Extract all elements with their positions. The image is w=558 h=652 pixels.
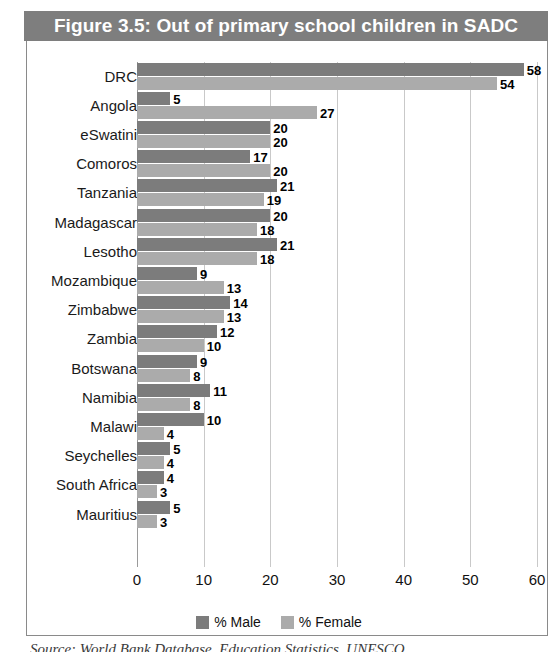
category-label: Madagascar bbox=[54, 215, 137, 230]
category-label: Comoros bbox=[76, 156, 137, 171]
bar-female bbox=[137, 106, 317, 119]
bar-value-female: 27 bbox=[320, 107, 334, 120]
gridline-50 bbox=[470, 62, 471, 567]
category-label: Angola bbox=[90, 98, 137, 113]
bar-female bbox=[137, 398, 190, 411]
bar-value-female: 13 bbox=[227, 282, 241, 295]
x-axis-tick-30: 30 bbox=[317, 572, 357, 587]
bar-value-male: 20 bbox=[273, 122, 287, 135]
category-label: eSwatini bbox=[80, 127, 137, 142]
bar-value-male: 21 bbox=[280, 180, 294, 193]
bar-male bbox=[137, 179, 277, 192]
bar-female bbox=[137, 456, 164, 469]
x-axis-tick-0: 0 bbox=[117, 572, 157, 587]
bar-value-female: 18 bbox=[260, 253, 274, 266]
bar-value-female: 18 bbox=[260, 224, 274, 237]
bar-female bbox=[137, 252, 257, 265]
category-label: Mozambique bbox=[51, 273, 137, 288]
bar-value-male: 11 bbox=[213, 385, 227, 398]
gridline-60 bbox=[537, 62, 538, 567]
bar-value-male: 21 bbox=[280, 239, 294, 252]
bar-value-female: 19 bbox=[267, 194, 281, 207]
bar-female bbox=[137, 485, 157, 498]
bar-value-female: 8 bbox=[193, 399, 200, 412]
bar-male bbox=[137, 471, 164, 484]
category-label: Mauritius bbox=[76, 507, 137, 522]
bar-male bbox=[137, 384, 210, 397]
bar-male bbox=[137, 209, 270, 222]
bar-female bbox=[137, 515, 157, 528]
bar-female bbox=[137, 427, 164, 440]
category-label: Tanzania bbox=[77, 185, 137, 200]
legend-swatch-male bbox=[196, 616, 209, 629]
category-label: Zimbabwe bbox=[68, 302, 137, 317]
bar-female bbox=[137, 77, 497, 90]
bar-male bbox=[137, 150, 250, 163]
legend-label-male: % Male bbox=[214, 614, 261, 630]
bar-male bbox=[137, 325, 217, 338]
bar-value-female: 3 bbox=[160, 516, 167, 529]
gridline-40 bbox=[404, 62, 405, 567]
bar-value-female: 20 bbox=[273, 165, 287, 178]
bar-value-male: 58 bbox=[527, 64, 541, 77]
bar-value-male: 10 bbox=[207, 414, 221, 427]
category-label: Seychelles bbox=[64, 448, 137, 463]
legend-item-male: % Male bbox=[196, 614, 261, 630]
bar-value-female: 13 bbox=[227, 311, 241, 324]
bar-male bbox=[137, 501, 170, 514]
bar-male bbox=[137, 442, 170, 455]
bar-male bbox=[137, 92, 170, 105]
category-label: South Africa bbox=[56, 477, 137, 492]
category-label: Namibia bbox=[82, 390, 137, 405]
bar-male bbox=[137, 413, 204, 426]
bar-value-male: 12 bbox=[220, 326, 234, 339]
gridline-30 bbox=[337, 62, 338, 567]
category-label: DRC bbox=[105, 69, 138, 84]
bar-value-male: 9 bbox=[200, 268, 207, 281]
bar-value-male: 5 bbox=[173, 443, 180, 456]
bar-value-male: 20 bbox=[273, 210, 287, 223]
x-axis-tick-40: 40 bbox=[384, 572, 424, 587]
bar-value-male: 9 bbox=[200, 356, 207, 369]
bar-value-male: 5 bbox=[173, 93, 180, 106]
bar-female bbox=[137, 193, 264, 206]
legend-label-female: % Female bbox=[299, 614, 362, 630]
bar-value-male: 4 bbox=[167, 472, 174, 485]
bar-value-female: 8 bbox=[193, 370, 200, 383]
x-axis-tick-10: 10 bbox=[184, 572, 224, 587]
bar-male bbox=[137, 121, 270, 134]
bar-value-female: 4 bbox=[167, 457, 174, 470]
bar-female bbox=[137, 135, 270, 148]
x-axis-tick-60: 60 bbox=[517, 572, 557, 587]
x-axis-tick-20: 20 bbox=[250, 572, 290, 587]
bar-male bbox=[137, 267, 197, 280]
bar-female bbox=[137, 369, 190, 382]
legend-item-female: % Female bbox=[281, 614, 362, 630]
bar-male bbox=[137, 63, 524, 76]
source-caption: Source: World Bank Database, Education S… bbox=[30, 641, 550, 652]
bar-value-female: 4 bbox=[167, 428, 174, 441]
bar-female bbox=[137, 339, 204, 352]
bar-value-female: 54 bbox=[500, 78, 514, 91]
category-label: Malawi bbox=[90, 419, 137, 434]
bar-female bbox=[137, 281, 224, 294]
chart-legend: % Male % Female bbox=[0, 614, 558, 630]
bar-value-female: 20 bbox=[273, 136, 287, 149]
bar-value-male: 5 bbox=[173, 502, 180, 515]
bar-male bbox=[137, 355, 197, 368]
category-label: Botswana bbox=[71, 361, 137, 376]
legend-swatch-female bbox=[281, 616, 294, 629]
bar-value-female: 10 bbox=[207, 340, 221, 353]
bar-female bbox=[137, 223, 257, 236]
bar-female bbox=[137, 310, 224, 323]
bar-male bbox=[137, 296, 230, 309]
bar-male bbox=[137, 238, 277, 251]
bar-value-male: 17 bbox=[253, 151, 267, 164]
bar-value-male: 14 bbox=[233, 297, 247, 310]
category-label: Lesotho bbox=[84, 244, 137, 259]
x-axis-tick-50: 50 bbox=[450, 572, 490, 587]
bar-chart: 0102030405060DRC5854Angola527eSwatini202… bbox=[0, 0, 558, 652]
bar-value-female: 3 bbox=[160, 486, 167, 499]
bar-female bbox=[137, 164, 270, 177]
category-label: Zambia bbox=[87, 331, 137, 346]
